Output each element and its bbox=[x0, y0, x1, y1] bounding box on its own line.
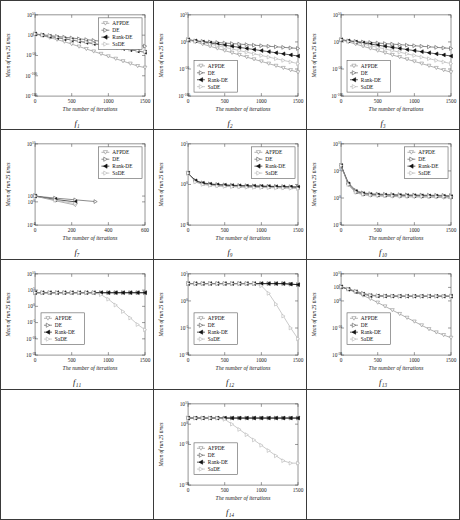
marker-AFPDE bbox=[398, 312, 402, 315]
x-tick-label: 1000 bbox=[409, 227, 420, 233]
marker-AFPDE bbox=[405, 316, 409, 319]
marker-Rank-DE bbox=[398, 46, 401, 50]
marker-SaDE bbox=[238, 427, 241, 431]
legend-label-DE: DE bbox=[361, 322, 368, 328]
marker-SaDE bbox=[267, 55, 270, 59]
plot-f12: 05001000150010510010-510-10The number of… bbox=[154, 260, 306, 389]
legend-label-SaDE: SaDE bbox=[112, 41, 124, 47]
marker-SaDE bbox=[274, 454, 277, 458]
marker-DE bbox=[413, 43, 416, 47]
x-tick-label: 1500 bbox=[293, 98, 304, 104]
marker-SaDE bbox=[435, 58, 438, 62]
plot-f13: 050010001500101010510010-1010-20The numb… bbox=[307, 260, 459, 389]
series-line-DE bbox=[188, 39, 298, 48]
marker-AFPDE bbox=[383, 305, 387, 308]
marker-SaDE bbox=[289, 461, 292, 465]
figure-row-4: 050010001500101010010-1010-30The number … bbox=[0, 389, 460, 519]
marker-DE bbox=[252, 43, 255, 47]
panel-cell-empty-3-2 bbox=[306, 389, 460, 520]
x-tick-label: 500 bbox=[67, 357, 75, 363]
figure-row-2: 0200400600101010110010-4The number of it… bbox=[0, 130, 460, 260]
series-line-Rank-DE bbox=[188, 39, 298, 55]
marker-SaDE bbox=[245, 50, 248, 54]
series-line-SaDE bbox=[341, 39, 451, 63]
x-axis-title: The number of iterations bbox=[215, 365, 270, 371]
legend-label-Rank-DE: Rank-DE bbox=[361, 76, 381, 82]
plot-f14: 050010001500101010010-1010-30The number … bbox=[154, 390, 306, 519]
panel-caption-f2: f₂ bbox=[227, 118, 232, 127]
legend-label-AFPDE: AFPDE bbox=[112, 150, 129, 156]
y-tick-label: 10-100 bbox=[25, 72, 37, 78]
y-axis-title: Mean of run 25 times bbox=[158, 33, 164, 78]
x-tick-label: 1500 bbox=[293, 227, 304, 233]
x-tick-label: 200 bbox=[67, 227, 75, 233]
marker-SaDE bbox=[406, 51, 409, 55]
legend-label-SaDE: SaDE bbox=[361, 336, 373, 342]
x-tick-label: 500 bbox=[67, 98, 75, 104]
marker-Rank-DE bbox=[259, 48, 262, 52]
plot-f11: 050010001500101010510010-510-1010-15The … bbox=[1, 260, 153, 389]
legend-label-SaDE: SaDE bbox=[208, 466, 220, 472]
y-tick-label: 105 bbox=[334, 168, 341, 174]
x-tick-label: 1500 bbox=[446, 227, 457, 233]
marker-SaDE bbox=[442, 60, 445, 64]
panel-caption-f3: f₃ bbox=[381, 118, 386, 127]
panel-caption-f1: f₁ bbox=[74, 118, 79, 127]
marker-SaDE bbox=[230, 422, 233, 426]
y-tick-label: 100 bbox=[180, 298, 187, 304]
marker-Rank-DE bbox=[274, 50, 277, 54]
legend-label-AFPDE: AFPDE bbox=[208, 445, 225, 451]
legend-label-Rank-DE: Rank-DE bbox=[361, 329, 381, 335]
legend-label-AFPDE: AFPDE bbox=[112, 20, 129, 26]
legend-label-DE: DE bbox=[208, 69, 215, 75]
x-tick-label: 0 bbox=[187, 487, 190, 493]
panel-caption-f9: f₉ bbox=[227, 248, 232, 257]
x-tick-label: 500 bbox=[221, 227, 229, 233]
x-tick-label: 500 bbox=[221, 357, 229, 363]
plot-f7: 0200400600101010110010-4The number of it… bbox=[1, 130, 153, 259]
legend-label-DE: DE bbox=[208, 452, 215, 458]
legend-label-Rank-DE: Rank-DE bbox=[112, 34, 132, 40]
plot-f9: 05001000150010510010-5The number of iter… bbox=[154, 130, 306, 259]
y-axis-title: Mean of run 25 times bbox=[311, 292, 317, 337]
marker-SaDE bbox=[136, 323, 139, 327]
x-tick-label: 1500 bbox=[446, 98, 457, 104]
y-tick-label: 1010 bbox=[180, 400, 189, 406]
x-axis-title: The number of iterations bbox=[369, 365, 424, 371]
x-axis-title: The number of iterations bbox=[215, 495, 270, 501]
panel-caption-f7: f₇ bbox=[74, 248, 79, 257]
marker-Rank-DE bbox=[281, 51, 284, 55]
legend-label-Rank-DE: Rank-DE bbox=[208, 329, 228, 335]
y-tick-label: 100 bbox=[334, 195, 341, 201]
marker-DE bbox=[289, 46, 292, 50]
y-tick-label: 1050 bbox=[180, 11, 189, 17]
y-axis-title: Mean of run 25 times bbox=[5, 163, 11, 208]
legend-label-SaDE: SaDE bbox=[112, 170, 124, 176]
x-axis-title: The number of iterations bbox=[369, 105, 424, 111]
series-line-SaDE bbox=[188, 39, 298, 63]
x-tick-label: 500 bbox=[374, 98, 382, 104]
marker-Rank-DE bbox=[405, 47, 408, 51]
plot-f1: 050010001500105010010-5010-10010-150The … bbox=[1, 1, 153, 130]
legend-label-Rank-DE: Rank-DE bbox=[112, 163, 132, 169]
marker-SaDE bbox=[282, 459, 285, 463]
x-tick-label: 1000 bbox=[256, 98, 267, 104]
marker-SaDE bbox=[420, 55, 423, 59]
marker-Rank-DE bbox=[252, 47, 255, 51]
legend-label-AFPDE: AFPDE bbox=[54, 315, 71, 321]
marker-DE bbox=[267, 44, 270, 48]
series-line-Rank-DE bbox=[341, 39, 451, 55]
x-tick-label: 1500 bbox=[293, 357, 304, 363]
figure-row-1: 050010001500105010010-5010-10010-150The … bbox=[0, 0, 460, 130]
legend-label-AFPDE: AFPDE bbox=[208, 315, 225, 321]
marker-SaDE bbox=[260, 53, 263, 57]
panel-caption-f11: f₁₁ bbox=[73, 378, 81, 387]
y-tick-label: 1010 bbox=[26, 271, 35, 277]
y-tick-label: 100 bbox=[27, 303, 34, 309]
panel-cell-f11: 050010001500101010510010-510-1010-15The … bbox=[0, 259, 154, 390]
legend-label-SaDE: SaDE bbox=[54, 336, 66, 342]
y-axis-title: Mean of run 25 times bbox=[311, 163, 317, 208]
y-tick-label: 105 bbox=[180, 271, 187, 277]
marker-DE bbox=[406, 43, 409, 47]
y-tick-label: 1010 bbox=[333, 271, 342, 277]
